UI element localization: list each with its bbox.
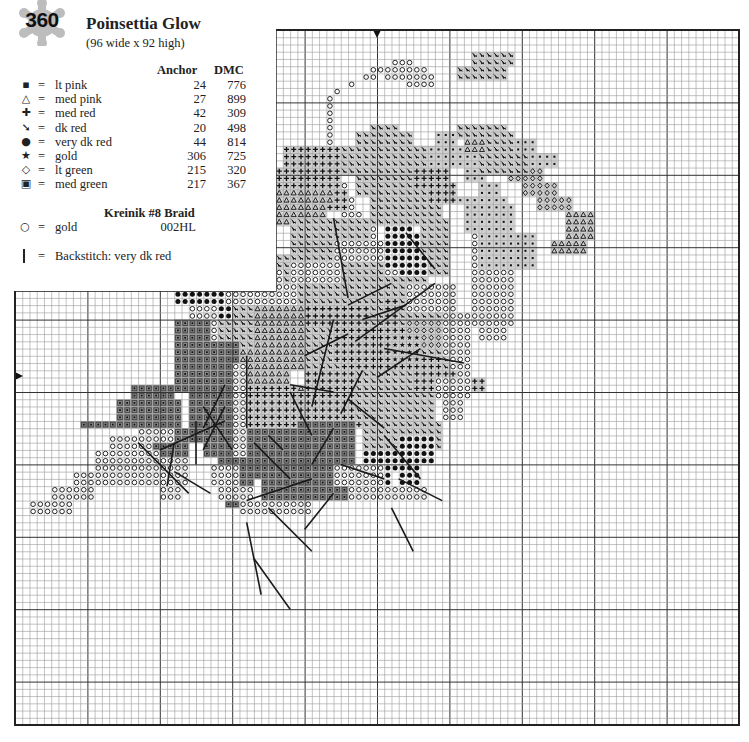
kreinik-heading: Kreinik #8 Braid [104,206,195,221]
anchor-column-header: Anchor [157,63,197,78]
anchor-number: 44 [194,135,207,149]
legend-row-braid-gold: ○ = gold 002HL [0,220,260,234]
arrow-symbol-icon: ➘ [20,121,32,135]
dmc-number: 725 [227,149,246,163]
thread-color-name: med green [55,177,107,191]
anchor-number: 215 [187,163,206,177]
thread-color-name: med pink [55,92,102,106]
plus-symbol-icon: ✚ [20,106,32,120]
legend-row-lt-green: ◇=lt green215320 [0,163,260,177]
backstitch-line-icon [23,249,25,263]
pattern-number: 360 [14,8,70,32]
braid-code: 002HL [161,220,196,234]
anchor-number: 306 [187,149,206,163]
square-dot-symbol-icon: ▪ [20,78,32,92]
anchor-number: 27 [194,92,207,106]
legend-row-med-red: ✚=med red42309 [0,106,260,120]
anchor-number: 217 [187,177,206,191]
legend-row-med-green: ▣=med green217367 [0,177,260,191]
legend-row-med-pink: △=med pink27899 [0,92,260,106]
legend-row-gold: ★=gold306725 [0,149,260,163]
legend-row-backstitch: = Backstitch: very dk red [0,248,260,264]
dmc-number: 814 [227,135,246,149]
backstitch-label: Backstitch: very dk red [55,248,171,264]
thread-color-name: lt pink [55,78,87,92]
boxed-square-symbol-icon: ▣ [20,177,32,191]
pattern-title: Poinsettia Glow [86,14,201,34]
dmc-number: 899 [227,92,246,106]
braid-color-name: gold [55,220,77,234]
thread-color-name: med red [55,106,96,120]
dmc-number: 776 [227,78,246,92]
dmc-number: 498 [227,121,246,135]
pattern-dimensions: (96 wide x 92 high) [86,36,185,51]
dmc-number: 309 [227,106,246,120]
legend-row-very-dk-red: ●=very dk red44814 [0,135,260,149]
thread-color-name: very dk red [55,135,112,149]
thread-color-name: dk red [55,121,87,135]
filled-circle-symbol-icon: ● [20,135,32,149]
legend-row-lt-pink: ▪=lt pink24776 [0,78,260,92]
thread-color-name: lt green [55,163,93,177]
diamond-symbol-icon: ◇ [20,163,32,177]
triangle-symbol-icon: △ [20,92,32,106]
dmc-number: 367 [227,177,246,191]
legend-row-dk-red: ➘=dk red20498 [0,121,260,135]
anchor-number: 42 [194,106,207,120]
dmc-column-header: DMC [214,63,244,78]
dmc-number: 320 [227,163,246,177]
anchor-number: 24 [194,78,207,92]
star-symbol-icon: ★ [20,149,32,163]
circle-symbol-icon: ○ [19,220,31,234]
key-panel: 360 Poinsettia Glow (96 wide x 92 high) … [0,0,276,291]
thread-color-name: gold [55,149,77,163]
anchor-number: 20 [194,121,207,135]
